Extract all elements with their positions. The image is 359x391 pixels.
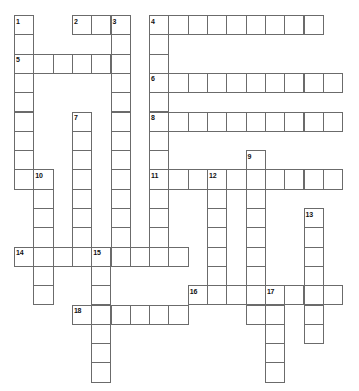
crossword-cell[interactable]: [284, 112, 304, 132]
crossword-cell[interactable]: [284, 15, 304, 35]
crossword-cell[interactable]: [33, 54, 53, 74]
crossword-cell[interactable]: [323, 285, 343, 305]
crossword-cell[interactable]: [246, 189, 266, 209]
crossword-cell[interactable]: [168, 305, 188, 325]
crossword-cell[interactable]: [111, 54, 131, 74]
crossword-cell[interactable]: [72, 131, 92, 151]
crossword-cell[interactable]: [304, 247, 324, 267]
crossword-cell[interactable]: [111, 131, 131, 151]
crossword-cell[interactable]: [149, 73, 169, 93]
crossword-cell[interactable]: [265, 362, 285, 382]
crossword-cell[interactable]: [111, 112, 131, 132]
crossword-cell[interactable]: [72, 112, 92, 132]
crossword-cell[interactable]: [207, 247, 227, 267]
crossword-cell[interactable]: [226, 169, 246, 189]
crossword-cell[interactable]: [304, 324, 324, 344]
crossword-cell[interactable]: [72, 305, 92, 325]
crossword-cell[interactable]: [33, 285, 53, 305]
crossword-cell[interactable]: [207, 15, 227, 35]
crossword-cell[interactable]: [304, 285, 324, 305]
crossword-cell[interactable]: [111, 92, 131, 112]
crossword-cell[interactable]: [207, 189, 227, 209]
crossword-cell[interactable]: [14, 247, 34, 267]
crossword-cell[interactable]: [149, 112, 169, 132]
crossword-cell[interactable]: [149, 227, 169, 247]
crossword-cell[interactable]: [207, 112, 227, 132]
crossword-cell[interactable]: [33, 266, 53, 286]
crossword-cell[interactable]: [246, 73, 266, 93]
crossword-cell[interactable]: [323, 169, 343, 189]
crossword-cell[interactable]: [91, 362, 111, 382]
crossword-cell[interactable]: [91, 54, 111, 74]
crossword-cell[interactable]: [91, 343, 111, 363]
crossword-cell[interactable]: [149, 189, 169, 209]
crossword-cell[interactable]: [188, 73, 208, 93]
crossword-cell[interactable]: [111, 34, 131, 54]
crossword-cell[interactable]: [226, 15, 246, 35]
crossword-cell[interactable]: [246, 305, 266, 325]
crossword-cell[interactable]: [149, 247, 169, 267]
crossword-cell[interactable]: [111, 73, 131, 93]
crossword-cell[interactable]: [304, 208, 324, 228]
crossword-cell[interactable]: [149, 169, 169, 189]
crossword-cell[interactable]: [72, 189, 92, 209]
crossword-cell[interactable]: [111, 169, 131, 189]
crossword-cell[interactable]: [188, 169, 208, 189]
crossword-cell[interactable]: [323, 112, 343, 132]
crossword-cell[interactable]: [91, 305, 111, 325]
crossword-cell[interactable]: [246, 15, 266, 35]
crossword-cell[interactable]: [14, 92, 34, 112]
crossword-cell[interactable]: [226, 285, 246, 305]
crossword-cell[interactable]: [265, 112, 285, 132]
crossword-cell[interactable]: [284, 285, 304, 305]
crossword-cell[interactable]: [265, 169, 285, 189]
crossword-cell[interactable]: [149, 15, 169, 35]
crossword-cell[interactable]: [226, 112, 246, 132]
crossword-cell[interactable]: [33, 227, 53, 247]
crossword-cell[interactable]: [111, 15, 131, 35]
crossword-cell[interactable]: [246, 112, 266, 132]
crossword-cell[interactable]: [72, 227, 92, 247]
crossword-cell[interactable]: [72, 169, 92, 189]
crossword-cell[interactable]: [33, 189, 53, 209]
crossword-cell[interactable]: [33, 208, 53, 228]
crossword-cell[interactable]: [207, 73, 227, 93]
crossword-cell[interactable]: [265, 343, 285, 363]
crossword-cell[interactable]: [207, 266, 227, 286]
crossword-cell[interactable]: [130, 305, 150, 325]
crossword-cell[interactable]: [168, 15, 188, 35]
crossword-cell[interactable]: [72, 247, 92, 267]
crossword-cell[interactable]: [149, 54, 169, 74]
crossword-cell[interactable]: [246, 266, 266, 286]
crossword-cell[interactable]: [130, 247, 150, 267]
crossword-grid[interactable]: 123456789101112131415161718: [0, 0, 359, 391]
crossword-cell[interactable]: [33, 169, 53, 189]
crossword-cell[interactable]: [72, 150, 92, 170]
crossword-cell[interactable]: [14, 150, 34, 170]
crossword-cell[interactable]: [149, 150, 169, 170]
crossword-cell[interactable]: [284, 169, 304, 189]
crossword-cell[interactable]: [91, 324, 111, 344]
crossword-cell[interactable]: [53, 54, 73, 74]
crossword-cell[interactable]: [33, 247, 53, 267]
crossword-cell[interactable]: [14, 112, 34, 132]
crossword-cell[interactable]: [111, 189, 131, 209]
crossword-cell[interactable]: [111, 208, 131, 228]
crossword-cell[interactable]: [168, 73, 188, 93]
crossword-cell[interactable]: [72, 208, 92, 228]
crossword-cell[interactable]: [72, 15, 92, 35]
crossword-cell[interactable]: [246, 169, 266, 189]
crossword-cell[interactable]: [91, 247, 111, 267]
crossword-cell[interactable]: [304, 73, 324, 93]
crossword-cell[interactable]: [72, 54, 92, 74]
crossword-cell[interactable]: [323, 73, 343, 93]
crossword-cell[interactable]: [265, 73, 285, 93]
crossword-cell[interactable]: [265, 324, 285, 344]
crossword-cell[interactable]: [149, 131, 169, 151]
crossword-cell[interactable]: [304, 169, 324, 189]
crossword-cell[interactable]: [111, 150, 131, 170]
crossword-cell[interactable]: [91, 285, 111, 305]
crossword-cell[interactable]: [207, 208, 227, 228]
crossword-cell[interactable]: [265, 15, 285, 35]
crossword-cell[interactable]: [188, 112, 208, 132]
